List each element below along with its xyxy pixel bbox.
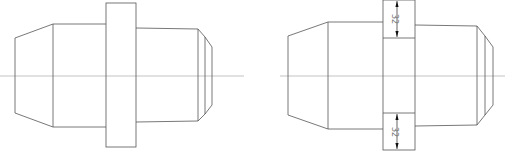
arrow-up-icon: [395, 1, 398, 7]
flange: [106, 3, 136, 147]
dimension-text-bottom: 32: [390, 127, 399, 137]
arrow-down-icon: [395, 31, 398, 37]
right-body-bottom-edge: [415, 125, 477, 126]
right-body-top-edge: [136, 28, 198, 29]
arrow-down-icon: [395, 143, 398, 149]
arrow-up-icon: [395, 114, 398, 120]
tapered-end: [288, 22, 328, 129]
dimension-text-top: 32: [390, 14, 399, 24]
right-body-bottom-edge: [136, 121, 198, 122]
technical-drawing-canvas: 32 32: [0, 0, 509, 160]
shaft-view-left: [0, 3, 244, 147]
right-body-top-edge: [415, 25, 477, 26]
tapered-end: [15, 24, 53, 127]
